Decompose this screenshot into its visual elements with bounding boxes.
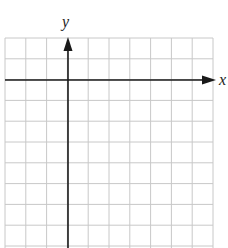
x-axis-label: x <box>218 71 226 88</box>
x-axis-arrow-icon <box>202 76 216 85</box>
y-axis-arrow-icon <box>64 37 73 51</box>
y-axis-label: y <box>60 13 70 31</box>
grid-lines <box>5 38 213 248</box>
coordinate-plane: x y <box>0 0 228 248</box>
